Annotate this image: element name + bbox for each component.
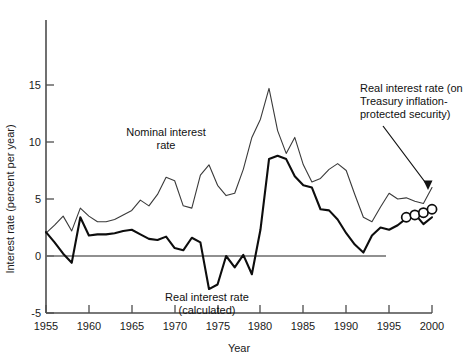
x-tick-label-1955: 1955 [34, 320, 58, 332]
tips-label-line2: Treasury inflation- [360, 95, 448, 107]
series-line-real-interest-rate-calculated [46, 156, 432, 289]
x-tick-label-1995: 1995 [377, 320, 401, 332]
x-tick-label-1965: 1965 [120, 320, 144, 332]
x-axis-title: Year [228, 342, 251, 354]
x-tick-label-1970: 1970 [163, 320, 187, 332]
annotation-tips: Real interest rate (on Treasury inflatio… [360, 82, 463, 190]
y-tick-label-0: 0 [35, 250, 41, 262]
nominal-rate-label-line2: rate [157, 139, 176, 151]
annotation-nominal-rate: Nominal interest rate [126, 126, 205, 151]
x-tick-label-2000: 2000 [420, 320, 444, 332]
x-tick-label-1990: 1990 [334, 320, 358, 332]
tips-arrow-leader [383, 126, 428, 186]
real-rate-label-line2: (calculated) [179, 304, 236, 316]
interest-rate-chart-figure: 15 10 5 0 -5 Interest rate (percent per … [0, 0, 467, 364]
x-tick-label-1960: 1960 [77, 320, 101, 332]
tips-data-point [427, 205, 436, 214]
nominal-rate-label-line1: Nominal interest [126, 126, 205, 138]
chart-plot-area: 15 10 5 0 -5 Interest rate (percent per … [0, 0, 467, 364]
tips-label-line1: Real interest rate (on [360, 82, 463, 94]
tips-label-line3: protected security) [360, 108, 450, 120]
y-tick-label-5: 5 [35, 193, 41, 205]
y-tick-label-15: 15 [29, 79, 41, 91]
y-axis-title: Interest rate (percent per year) [4, 124, 16, 273]
y-axis-ticks [46, 85, 54, 313]
x-tick-label-1975: 1975 [206, 320, 230, 332]
y-tick-label-neg5: -5 [31, 307, 41, 319]
x-tick-label-1985: 1985 [291, 320, 315, 332]
y-tick-label-10: 10 [29, 136, 41, 148]
x-tick-label-1980: 1980 [248, 320, 272, 332]
real-rate-label-line1: Real interest rate [165, 291, 249, 303]
x-axis-ticks [46, 305, 432, 313]
